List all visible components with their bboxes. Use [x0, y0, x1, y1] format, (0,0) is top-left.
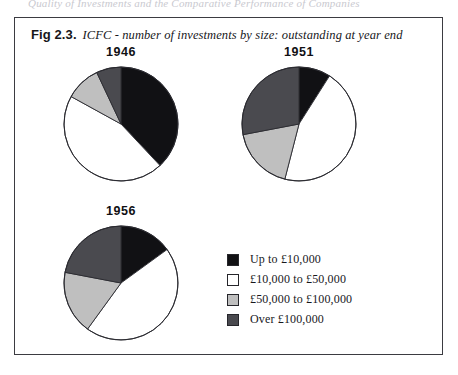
- pie-slice: [242, 67, 299, 135]
- figure-caption-text: ICFC - number of investments by size: ou…: [83, 28, 403, 42]
- legend-swatch-icon: [227, 294, 239, 306]
- pie-chart-1956-title: 1956: [59, 204, 183, 219]
- figure-panel: Fig 2.3.ICFC - number of investments by …: [14, 17, 443, 355]
- legend-swatch-icon: [227, 314, 239, 326]
- pie-chart-1946: 1946: [59, 45, 183, 185]
- legend-item: £50,000 to £100,000: [227, 290, 352, 309]
- figure-caption: Fig 2.3.ICFC - number of investments by …: [31, 27, 403, 43]
- pie-chart-1946-graphic: [59, 63, 183, 185]
- pie-chart-1956: 1956: [59, 204, 183, 344]
- legend-item: Over £100,000: [227, 310, 352, 329]
- legend-item: Up to £10,000: [227, 250, 352, 269]
- pie-chart-1946-title: 1946: [59, 45, 183, 60]
- legend-item-label: Up to £10,000: [250, 252, 321, 267]
- legend-item: £10,000 to £50,000: [227, 270, 352, 289]
- pie-chart-1951-title: 1951: [237, 45, 361, 60]
- legend-item-label: Over £100,000: [250, 312, 324, 327]
- figure-label: Fig 2.3.: [31, 27, 77, 42]
- pie-chart-1956-graphic: [59, 222, 183, 344]
- pie-chart-1951-graphic: [237, 63, 361, 185]
- chart-legend: Up to £10,000 £10,000 to £50,000 £50,000…: [227, 250, 352, 330]
- pie-chart-1951: 1951: [237, 45, 361, 185]
- legend-swatch-icon: [227, 274, 239, 286]
- legend-swatch-icon: [227, 254, 239, 266]
- legend-item-label: £10,000 to £50,000: [250, 272, 346, 287]
- legend-item-label: £50,000 to £100,000: [250, 292, 352, 307]
- page-top-cutoff-text: Quality of Investments and the Comparati…: [28, 0, 428, 9]
